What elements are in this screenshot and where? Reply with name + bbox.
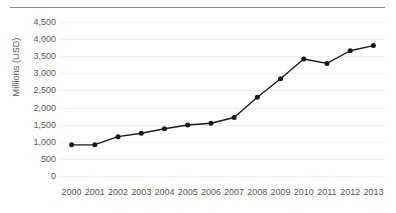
y-tick-label: 4,000 bbox=[18, 35, 56, 44]
x-tick-label: 2013 bbox=[353, 188, 393, 197]
data-point-marker: 2005: 1490 bbox=[185, 123, 190, 128]
data-point-marker: 2009: 2840 bbox=[278, 76, 283, 81]
data-point-marker: 2001: 915 bbox=[92, 142, 97, 147]
series-line bbox=[72, 46, 374, 145]
y-tick-label: 2,000 bbox=[18, 103, 56, 112]
data-point-marker: 2012: 3660 bbox=[348, 48, 353, 53]
y-tick-label: 500 bbox=[18, 154, 56, 163]
line-series: 2000: 9102001: 9152002: 11502003: 125020… bbox=[60, 22, 385, 176]
data-point-marker: 2008: 2300 bbox=[255, 95, 260, 100]
plot-area: 2000: 9102001: 9152002: 11502003: 125020… bbox=[60, 22, 385, 176]
data-point-marker: 2004: 1380 bbox=[162, 126, 167, 131]
chart-figure: Millions (USD) 05001,0001,5002,0002,5003… bbox=[0, 0, 396, 213]
data-point-marker: 2000: 910 bbox=[69, 142, 74, 147]
data-point-marker: 2002: 1150 bbox=[116, 134, 121, 139]
y-axis-tick-labels: 05001,0001,5002,0002,5003,0003,5004,0004… bbox=[18, 22, 56, 176]
top-divider-rule bbox=[10, 7, 385, 8]
y-tick-label: 4,500 bbox=[18, 18, 56, 27]
y-tick-label: 0 bbox=[18, 172, 56, 181]
gridline bbox=[60, 176, 385, 177]
data-point-marker: 2006: 1540 bbox=[208, 121, 213, 126]
y-tick-label: 1,500 bbox=[18, 120, 56, 129]
y-tick-label: 2,500 bbox=[18, 86, 56, 95]
data-point-marker: 2010: 3420 bbox=[301, 56, 306, 61]
data-point-marker: 2011: 3290 bbox=[324, 61, 329, 66]
y-tick-label: 3,500 bbox=[18, 52, 56, 61]
data-point-marker: 2007: 1710 bbox=[232, 115, 237, 120]
data-point-marker: 2013: 3810 bbox=[371, 43, 376, 48]
y-tick-label: 1,000 bbox=[18, 137, 56, 146]
y-tick-label: 3,000 bbox=[18, 69, 56, 78]
data-point-marker: 2003: 1250 bbox=[139, 131, 144, 136]
x-axis-tick-labels: 2000200120022003200420052006200720082009… bbox=[60, 188, 385, 202]
